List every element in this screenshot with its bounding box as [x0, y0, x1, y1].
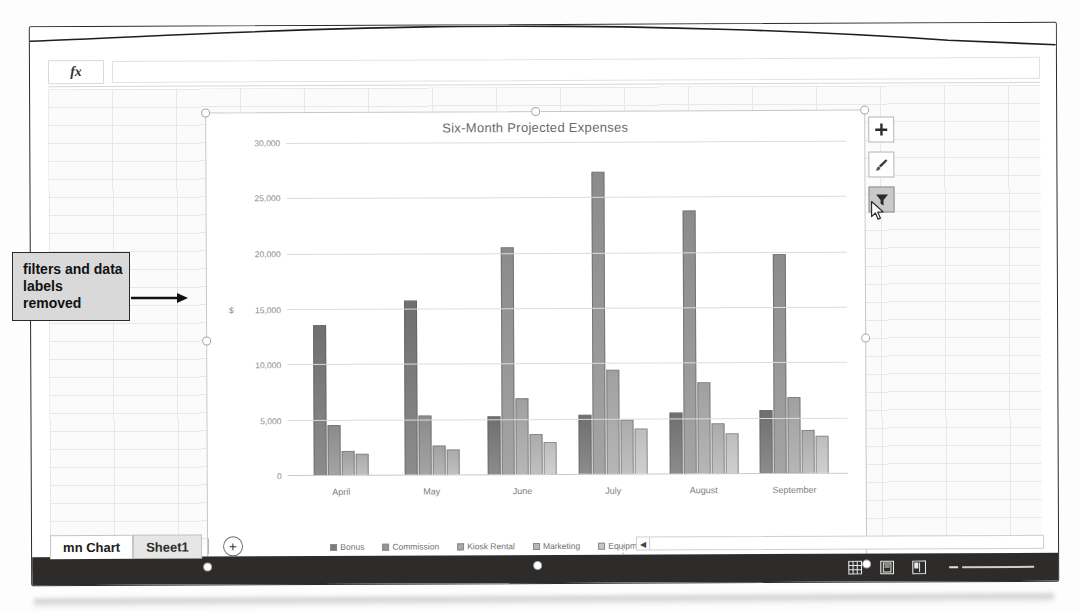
formula-input[interactable]	[112, 56, 1040, 82]
selection-handle-top-right[interactable]	[860, 106, 869, 115]
bar[interactable]	[432, 446, 445, 475]
chart-styles-button[interactable]	[868, 151, 894, 177]
bar[interactable]	[591, 172, 605, 474]
legend-swatch	[598, 542, 605, 549]
y-axis-tick-label: 10,000	[255, 360, 281, 370]
bar[interactable]	[634, 428, 647, 473]
bar[interactable]	[773, 254, 787, 473]
x-axis-category-label: August	[658, 485, 749, 495]
plot-area: 05,00010,00015,000$20,00025,00030,000 Ap…	[228, 141, 848, 505]
bar[interactable]	[544, 442, 557, 474]
x-axis-category-label: April	[296, 487, 387, 497]
bar[interactable]	[620, 419, 633, 473]
selection-handle-bottom[interactable]	[533, 561, 542, 570]
plot-canvas: AprilMayJuneJulyAugustSeptember	[286, 141, 847, 476]
bar[interactable]	[578, 415, 591, 474]
insert-function-button[interactable]: fx	[48, 59, 104, 83]
legend-item[interactable]: Bonus	[330, 542, 364, 552]
bar[interactable]	[816, 436, 829, 473]
bar[interactable]	[711, 423, 724, 473]
selection-handle-bottom-right[interactable]	[862, 560, 871, 569]
legend-item[interactable]: Commission	[382, 541, 439, 551]
zoom-out-button[interactable]	[949, 566, 958, 568]
zoom-track[interactable]	[962, 566, 1034, 568]
bar[interactable]	[341, 450, 354, 474]
bar[interactable]	[355, 454, 368, 475]
bar[interactable]	[501, 247, 515, 474]
legend-swatch	[533, 543, 540, 550]
y-axis-tick-label: 20,000	[255, 249, 281, 259]
x-axis-category-label: July	[568, 486, 659, 496]
legend-item[interactable]: Marketing	[533, 541, 580, 551]
x-axis-category-label: June	[477, 486, 568, 496]
legend-label: Commission	[392, 541, 439, 551]
bar[interactable]	[788, 397, 801, 473]
grid-icon	[848, 561, 862, 575]
y-axis: 05,00010,00015,000$20,00025,00030,000	[228, 143, 288, 504]
bar[interactable]	[488, 417, 501, 475]
bar[interactable]	[802, 430, 815, 473]
legend-swatch	[330, 543, 337, 550]
bar[interactable]	[516, 398, 529, 474]
mouse-cursor	[871, 201, 887, 227]
legend-swatch	[382, 543, 389, 550]
selection-handle-left[interactable]	[202, 336, 211, 345]
chart-object[interactable]: Six-Month Projected Expenses	[205, 110, 867, 568]
bar[interactable]	[682, 210, 696, 473]
x-axis-category-label: September	[749, 485, 840, 495]
tab-divider	[208, 538, 209, 554]
brush-icon	[874, 157, 889, 172]
bar[interactable]	[760, 410, 773, 473]
legend-label: Bonus	[340, 542, 364, 552]
selection-handle-right[interactable]	[861, 333, 870, 342]
y-axis-tick-label: 25,000	[255, 194, 281, 204]
y-axis-tick-label: 0	[277, 471, 282, 481]
split-handle[interactable]: ⋮	[618, 546, 628, 553]
chart-title: Six-Month Projected Expenses	[206, 119, 864, 137]
selection-handle-top-left[interactable]	[201, 108, 210, 117]
chart-side-buttons	[868, 116, 894, 212]
y-axis-currency-marker: $	[229, 305, 234, 315]
y-axis-tick-label: 15,000	[255, 305, 281, 315]
bar[interactable]	[606, 370, 619, 474]
bar[interactable]	[418, 416, 431, 475]
bar[interactable]	[669, 413, 682, 474]
bar[interactable]	[725, 433, 738, 473]
y-axis-tick-label: 5,000	[260, 416, 281, 426]
bar[interactable]	[697, 383, 710, 474]
page-icon	[880, 560, 894, 574]
bar[interactable]	[327, 425, 340, 475]
y-axis-tick-label: 30,000	[254, 138, 280, 148]
page-break-icon	[912, 560, 926, 574]
x-axis-category-label: May	[386, 486, 477, 496]
selection-handle-top[interactable]	[531, 107, 540, 116]
page-break-view-button[interactable]	[911, 559, 927, 575]
legend-label: Kiosk Rental	[467, 541, 515, 551]
torn-edge	[30, 23, 1056, 53]
sheet-tab-mn-chart[interactable]: mn Chart	[50, 535, 133, 559]
page-layout-view-button[interactable]	[879, 559, 895, 575]
bar[interactable]	[446, 449, 459, 475]
sheet-tab-bar: mn ChartSheet1+	[50, 532, 243, 559]
selection-handle-bottom-left[interactable]	[203, 562, 212, 571]
formula-bar: fx	[48, 53, 1040, 87]
bar[interactable]	[403, 301, 417, 475]
bar[interactable]	[530, 434, 543, 474]
normal-view-button[interactable]	[847, 560, 863, 576]
legend-swatch	[457, 543, 464, 550]
zoom-slider[interactable]	[949, 566, 1034, 568]
legend-item[interactable]: Kiosk Rental	[457, 541, 515, 551]
scroll-left-button[interactable]: ◀	[637, 538, 650, 550]
annotation-callout: filters and data labels removed	[12, 252, 130, 321]
chart-elements-button[interactable]	[868, 116, 894, 142]
horizontal-scrollbar[interactable]: ◀	[636, 535, 1044, 551]
add-sheet-button[interactable]: +	[223, 536, 243, 556]
bar[interactable]	[313, 324, 327, 475]
legend-label: Marketing	[543, 541, 580, 551]
annotation-arrow	[131, 290, 189, 302]
sheet-tab-sheet1[interactable]: Sheet1	[133, 534, 202, 558]
plus-icon	[874, 122, 888, 136]
